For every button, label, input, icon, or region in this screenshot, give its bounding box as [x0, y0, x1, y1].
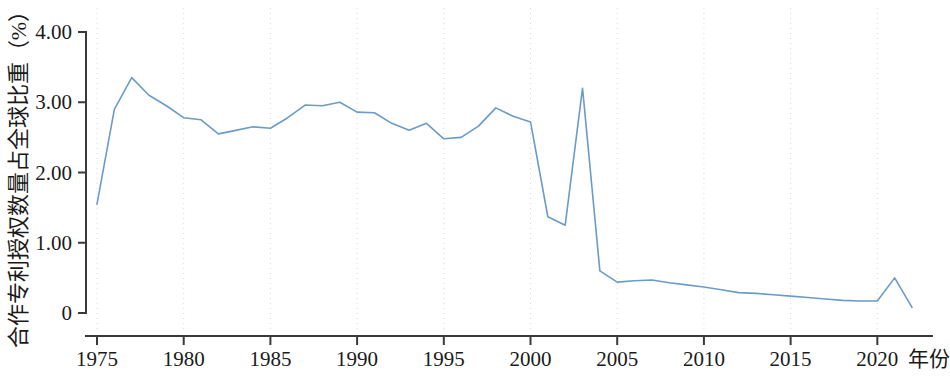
- y-tick-label-0: 0: [62, 301, 73, 325]
- y-axis-ticks-group: 01.002.003.004.00: [35, 20, 86, 325]
- line-chart-figure: 01.002.003.004.00 1975198019851990199520…: [0, 0, 950, 377]
- x-tick-label-2015: 2015: [770, 347, 812, 371]
- y-axis-title: 合作专利授权数量占全球比重（%）: [6, 0, 31, 348]
- x-axis-ticks-group: 1975198019851990199520002005201020152020: [76, 336, 898, 371]
- y-tick-label-2.00: 2.00: [35, 161, 72, 185]
- x-tick-label-1990: 1990: [336, 347, 378, 371]
- x-tick-label-1985: 1985: [249, 347, 291, 371]
- y-tick-label-4.00: 4.00: [35, 20, 72, 44]
- data-line-series-0: [97, 78, 912, 308]
- x-tick-label-2000: 2000: [510, 347, 552, 371]
- data-series-group: [97, 78, 912, 308]
- y-tick-label-1.00: 1.00: [35, 231, 72, 255]
- x-tick-label-2010: 2010: [683, 347, 725, 371]
- y-tick-label-3.00: 3.00: [35, 90, 72, 114]
- axes-group: [86, 32, 932, 336]
- chart-canvas: 01.002.003.004.00 1975198019851990199520…: [0, 0, 950, 377]
- x-tick-label-1980: 1980: [163, 347, 205, 371]
- grid-lines-group: [97, 8, 877, 330]
- x-tick-label-1995: 1995: [423, 347, 465, 371]
- chart-page: 01.002.003.004.00 1975198019851990199520…: [0, 0, 950, 377]
- x-axis-title: 年份: [908, 347, 950, 371]
- x-tick-label-2005: 2005: [596, 347, 638, 371]
- x-tick-label-1975: 1975: [76, 347, 118, 371]
- x-tick-label-2020: 2020: [856, 347, 898, 371]
